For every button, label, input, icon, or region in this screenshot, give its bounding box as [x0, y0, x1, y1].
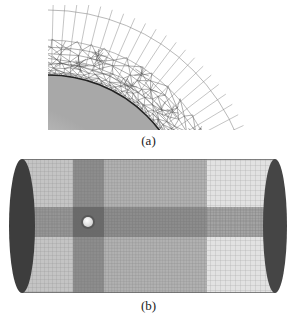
mesh-close-up-graphic [0, 0, 297, 155]
panel-b-cylindrical-domain-grid: (b) [0, 155, 297, 319]
cylinder-grid-graphic [0, 155, 297, 319]
panel-b-caption: (b) [0, 298, 297, 314]
sphere-body [83, 217, 93, 227]
outlet-end-cap [263, 159, 287, 293]
inlet-end-cap [9, 159, 35, 293]
panel-a-caption: (a) [0, 133, 297, 149]
panel-a-boundary-layer-mesh: (a) [0, 0, 297, 155]
